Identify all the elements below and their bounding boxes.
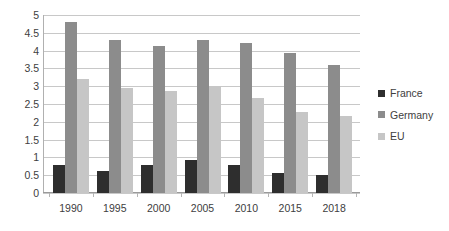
- x-axis-tick-label: 2010: [224, 196, 268, 216]
- bar-germany-2000: [153, 46, 165, 193]
- plot-area: [43, 15, 360, 193]
- bar-germany-1995: [109, 40, 121, 193]
- y-axis-tick-label: 0: [33, 188, 39, 199]
- bar-eu-2010: [252, 98, 264, 193]
- bar-france-2018: [316, 175, 328, 194]
- bar-france-1990: [53, 165, 65, 193]
- bar-germany-2005: [197, 40, 209, 193]
- legend-label: Germany: [390, 110, 433, 121]
- legend-label: France: [390, 88, 423, 99]
- y-axis-tick-label: 1: [33, 152, 39, 163]
- legend-item-eu[interactable]: EU: [378, 131, 448, 142]
- bar-germany-2018: [328, 65, 340, 193]
- bar-eu-1990: [77, 79, 89, 193]
- bar-group: [268, 15, 312, 193]
- bar-eu-2005: [209, 86, 221, 194]
- y-axis-tick-label: 4: [33, 45, 39, 56]
- bar-france-2000: [141, 165, 153, 193]
- bar-germany-1990: [65, 22, 77, 193]
- bar-france-2010: [228, 165, 240, 193]
- legend: FranceGermanyEU: [378, 88, 448, 153]
- bar-germany-2015: [284, 53, 296, 193]
- bar-chart: 00.511.522.533.544.55 199019952000200520…: [0, 0, 449, 231]
- y-axis-tick-labels: 00.511.522.533.544.55: [0, 15, 39, 193]
- x-axis-tick-label: 2005: [181, 196, 225, 216]
- legend-swatch-icon: [378, 90, 385, 97]
- legend-swatch-icon: [378, 133, 385, 140]
- y-axis-tick-label: 1.5: [24, 134, 39, 145]
- bar-france-2015: [272, 173, 284, 193]
- bar-eu-2018: [340, 116, 352, 193]
- y-axis-tick-label: 5: [33, 10, 39, 21]
- y-axis-tick-label: 3: [33, 81, 39, 92]
- x-axis-tick-label: 2018: [312, 196, 356, 216]
- x-axis-tick-label: 1990: [49, 196, 93, 216]
- bar-eu-2000: [165, 91, 177, 193]
- bar-eu-2015: [296, 112, 308, 193]
- bar-group: [312, 15, 356, 193]
- bar-group: [137, 15, 181, 193]
- legend-item-germany[interactable]: Germany: [378, 110, 448, 121]
- y-axis-tick-label: 2.5: [24, 99, 39, 110]
- x-axis-tick-labels: 1990199520002005201020152018: [43, 196, 360, 216]
- bar-france-2005: [185, 160, 197, 193]
- legend-item-france[interactable]: France: [378, 88, 448, 99]
- x-axis-tick-label: 2015: [268, 196, 312, 216]
- bar-group: [93, 15, 137, 193]
- bar-group: [181, 15, 225, 193]
- bar-eu-1995: [121, 88, 133, 193]
- y-axis-tick-label: 4.5: [24, 28, 39, 39]
- bar-group: [224, 15, 268, 193]
- bar-france-1995: [97, 171, 109, 193]
- bar-germany-2010: [240, 43, 252, 193]
- bar-group: [49, 15, 93, 193]
- legend-swatch-icon: [378, 111, 385, 118]
- y-axis-tick-label: 2: [33, 117, 39, 128]
- y-axis-tick-label: 3.5: [24, 63, 39, 74]
- legend-label: EU: [390, 131, 405, 142]
- x-axis-tick-label: 2000: [137, 196, 181, 216]
- y-axis-tick-label: 0.5: [24, 170, 39, 181]
- x-axis-tick-label: 1995: [93, 196, 137, 216]
- bar-groups: [43, 15, 360, 193]
